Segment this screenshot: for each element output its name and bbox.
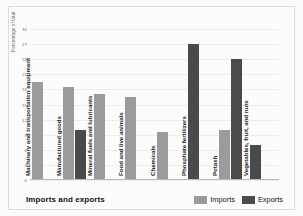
y-axis-tick-label: 27 [22,42,27,47]
x-axis-baseline [30,179,279,180]
bar-group: Vegetables, fruit, and nuts [248,29,279,180]
legend-swatch-imports [194,196,207,204]
bar-imports [219,130,230,180]
bar-series-container: Machinery and transportation equipmentMa… [30,29,279,180]
x-axis-category-label: Food and live animals [117,112,124,176]
bar-imports [157,132,168,180]
bar-imports [125,97,136,180]
legend-item-exports: Exports [242,195,283,204]
x-axis-category-label: Manufactured goods [55,116,62,176]
bar-exports [188,44,199,180]
y-axis-label: Percentage of total [11,0,16,52]
bar-imports [32,82,43,180]
y-axis-tick-label: 30 [22,27,27,32]
x-axis-category-label: Machinery and transportation equipment [24,58,31,176]
x-axis-category-label: Mineral fuels and lubricants [86,96,93,176]
bar-imports [63,87,74,180]
chart-figure: Percentage of total 302724211815129630 M… [0,0,303,216]
bar-exports [75,130,86,180]
x-axis-category-label: Potash [211,156,218,176]
x-axis-category-label: Phosphate fertilizers [180,116,187,176]
legend-item-imports: Imports [194,195,235,204]
bar-exports [231,59,242,180]
chart-title: Imports and exports [26,195,105,204]
legend-swatch-exports [242,196,255,204]
plot-area: 302724211815129630 Machinery and transpo… [30,29,279,180]
bar-imports [94,94,105,180]
x-axis-category-label: Chemicals [149,145,156,176]
bar-exports [250,145,261,180]
legend-label-exports: Exports [258,195,283,204]
gridline: 0 [30,180,279,181]
chart-legend: Imports Exports [194,195,283,204]
legend-label-imports: Imports [210,195,235,204]
y-axis-tick-label: 0 [25,178,27,183]
x-axis-category-label: Vegetables, fruit, and nuts [242,100,249,176]
